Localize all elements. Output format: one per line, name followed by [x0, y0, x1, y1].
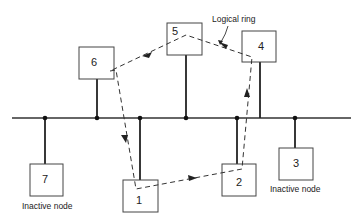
- node-3: 3: [279, 148, 313, 180]
- node-5: 5: [167, 23, 202, 55]
- node-5-label: 5: [172, 25, 178, 37]
- node-6: 6: [79, 47, 114, 79]
- junction-dot-node-2: [235, 116, 240, 121]
- logical-ring-leader-line: [221, 26, 228, 42]
- node-6-label: 6: [91, 56, 97, 68]
- node-2: 2: [222, 164, 256, 196]
- node-2-label: 2: [236, 176, 242, 188]
- node-4: 4: [242, 31, 276, 62]
- node-3-caption: Inactive node: [270, 184, 321, 194]
- node-1: 1: [123, 180, 158, 212]
- token-bus-diagram: 6 5 4 7 1 2 3 Inactive node Inactive nod…: [0, 0, 363, 223]
- node-4-label: 4: [258, 40, 264, 52]
- ring-arrow-6-to-1: [121, 135, 128, 143]
- node-7: 7: [30, 164, 63, 196]
- junction-dot-node-1: [138, 116, 143, 121]
- junction-dot-node-3: [293, 116, 298, 121]
- junction-dot-node-5: [184, 116, 189, 121]
- node-1-label: 1: [136, 194, 142, 206]
- junction-dot-node-6: [95, 116, 100, 121]
- junction-dot-node-7: [43, 116, 48, 121]
- node-7-caption: Inactive node: [22, 201, 73, 211]
- ring-arrow-1-to-2: [188, 175, 197, 181]
- logical-ring-label: Logical ring: [212, 14, 256, 24]
- node-7-label: 7: [42, 173, 48, 185]
- node-3-label: 3: [293, 157, 299, 169]
